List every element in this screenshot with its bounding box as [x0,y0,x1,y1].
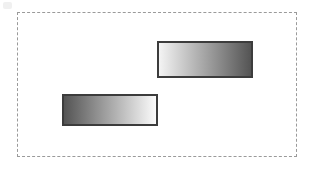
corner-scan-artifact [3,2,12,9]
figure-canvas [0,0,312,169]
gradient-rectangle-lower-left [62,94,158,126]
dashed-bounding-frame [17,12,297,157]
gradient-rectangle-upper-right [157,41,253,78]
